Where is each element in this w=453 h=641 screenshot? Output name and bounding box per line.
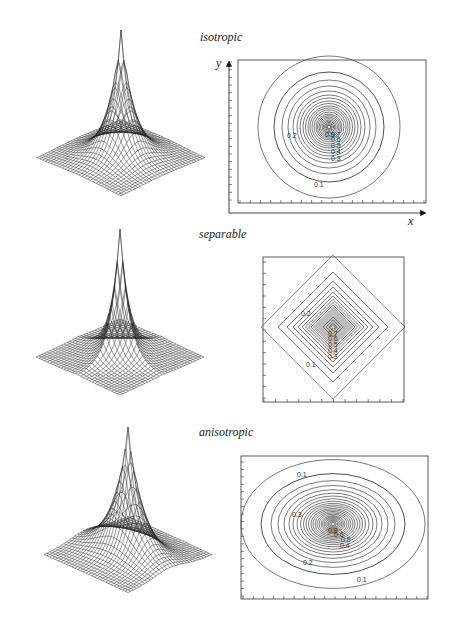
contour-label: 0.4: [340, 542, 350, 549]
contour-plot-separable: 0.2 0.1 0.3 0.4 0.5 0.6 0.7: [261, 255, 405, 402]
surface-plot-anisotropic: [44, 427, 212, 593]
contour-label: 0.1: [297, 471, 307, 478]
contour-plot-isotropic: y x 0.2 0.1 0.3 0.4 0.5 0.6 0.7 0.9: [215, 56, 426, 228]
contour-label: 0.9: [325, 131, 335, 138]
surface-plot-isotropic: [37, 30, 205, 196]
y-axis-label: y: [215, 56, 222, 70]
x-axis-label: x: [407, 214, 414, 228]
contour-label: 0.5: [331, 142, 341, 149]
contour-label: 0.1: [314, 181, 324, 188]
contour-label: 0.8: [328, 527, 338, 534]
contour-label: 0.5: [328, 341, 338, 348]
contour-label: 0.1: [306, 361, 316, 368]
contour-label: 0.3: [331, 155, 341, 162]
contour-label: 0.3: [328, 353, 338, 360]
contour-label: 0.3: [292, 511, 302, 518]
contour-plot-anisotropic: 0.1 0.3 0.2 0.1 0.4 0.5 0.6 0.8: [241, 456, 428, 599]
surface-plot-separable: [36, 229, 204, 395]
contour-label: 0.2: [287, 132, 297, 139]
contour-label: 0.2: [301, 310, 311, 317]
contour-label: 0.1: [357, 576, 367, 583]
figure-canvas: y x 0.2 0.1 0.3 0.4 0.5 0.6 0.7 0.9 0.2 …: [0, 0, 453, 641]
contour-label: 0.4: [331, 148, 341, 155]
contour-label: 0.2: [303, 559, 313, 566]
contour-label: 0.7: [328, 330, 338, 337]
contour-label: 0.4: [328, 347, 338, 354]
